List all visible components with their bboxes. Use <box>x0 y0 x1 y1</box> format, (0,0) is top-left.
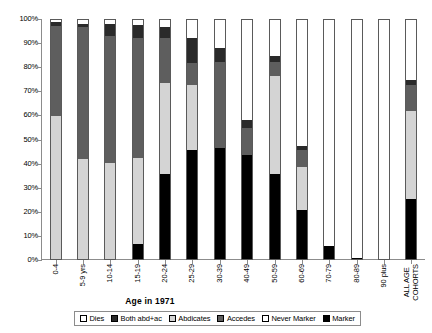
bar-segment-marker <box>324 246 334 259</box>
bar-segment-marker <box>133 244 143 259</box>
bar-segment-accedes <box>270 62 280 76</box>
x-label-slot: 90 plus <box>370 264 397 312</box>
x-axis-tick <box>138 260 139 264</box>
stacked-bar[interactable] <box>159 19 171 260</box>
x-axis-tick-label: 10-14 <box>106 264 115 283</box>
bar-slot <box>261 19 288 260</box>
bar-segment-marker <box>406 199 416 259</box>
bar-segment-accedes <box>51 26 61 116</box>
bar-segment-abdicates <box>105 163 115 259</box>
legend-label: Accedes <box>227 315 255 323</box>
legend-label: Marker <box>332 315 355 323</box>
chart-legend: DiesBoth abd+acAbdicatesAccedesNever Mar… <box>74 311 361 326</box>
bars-container <box>42 19 425 260</box>
bar-segment-dies <box>160 20 170 27</box>
y-axis-tick <box>37 236 42 237</box>
plot-area: 0%10%20%30%40%50%60%70%80%90%100% <box>0 0 432 268</box>
bar-slot <box>124 19 151 260</box>
x-label-slot: 80-89 <box>343 264 370 312</box>
x-axis-tick <box>165 260 166 264</box>
stacked-bar[interactable] <box>351 19 363 260</box>
y-axis-tick <box>37 115 42 116</box>
bar-segment-marker <box>297 210 307 259</box>
x-axis-tick-label: 25-29 <box>188 264 197 283</box>
x-axis-tick-label: 30-39 <box>216 264 225 283</box>
bar-segment-accedes <box>78 27 88 158</box>
bar-segment-accedes <box>242 128 252 155</box>
x-axis-tick <box>83 260 84 264</box>
y-axis-tick-label: 20% <box>24 208 38 216</box>
legend-label: Abdicates <box>178 315 210 323</box>
y-axis-tick-label: 60% <box>24 111 38 119</box>
stacked-bar[interactable] <box>214 19 226 260</box>
x-axis-tick-label: 15-19 <box>134 264 143 283</box>
y-axis-tick-labels: 0%10%20%30%40%50%60%70%80%90%100% <box>8 13 38 265</box>
bar-segment-marker <box>352 258 362 259</box>
bar-slot <box>69 19 96 260</box>
legend-item[interactable]: Accedes <box>217 315 255 323</box>
stacked-bar[interactable] <box>104 19 116 260</box>
y-axis-tick <box>37 260 42 261</box>
bar-slot <box>316 19 343 260</box>
legend-label: Both abd+ac <box>121 315 162 323</box>
bar-segment-both-abd-ac <box>105 24 115 36</box>
stacked-bar[interactable] <box>323 19 335 260</box>
x-axis-tick-label: 50-59 <box>270 264 279 283</box>
bar-slot <box>206 19 233 260</box>
stacked-bar[interactable] <box>269 19 281 260</box>
bar-segment-dies <box>297 20 307 145</box>
y-axis-tick <box>37 140 42 141</box>
stacked-bar[interactable] <box>50 19 62 260</box>
x-axis-title: Age in 1971 <box>0 296 300 306</box>
x-axis-tick <box>357 260 358 264</box>
x-axis-tick-label: 90 plus <box>380 264 389 288</box>
bar-slot <box>398 19 425 260</box>
stacked-bar[interactable] <box>186 19 198 260</box>
bar-segment-dies <box>406 20 416 80</box>
stacked-bar[interactable] <box>405 19 417 260</box>
bar-segment-dies <box>215 20 225 47</box>
y-axis-tick-label: 90% <box>24 39 38 47</box>
stacked-bar[interactable] <box>77 19 89 260</box>
y-axis-tick <box>37 188 42 189</box>
x-axis-tick-label: 60-69 <box>298 264 307 283</box>
stacked-bar-chart: 0%10%20%30%40%50%60%70%80%90%100% 0-45-9… <box>0 0 432 333</box>
bar-segment-abdicates <box>51 116 61 259</box>
bar-slot <box>179 19 206 260</box>
bar-segment-dies <box>379 20 389 259</box>
y-axis-tick <box>37 19 42 20</box>
bar-segment-accedes <box>187 63 197 85</box>
legend-item[interactable]: Dies <box>80 315 104 323</box>
stacked-bar[interactable] <box>241 19 253 260</box>
legend-item[interactable]: Never Marker <box>262 315 316 323</box>
stacked-bar[interactable] <box>132 19 144 260</box>
legend-swatch <box>111 315 118 322</box>
bar-segment-both-abd-ac <box>215 48 225 62</box>
x-axis-tick-label: 40-49 <box>243 264 252 283</box>
bar-segment-marker <box>215 148 225 259</box>
x-label-slot: ALL AGE COHORTS <box>398 264 425 312</box>
x-axis-tick <box>411 260 412 264</box>
y-axis-tick-label: 30% <box>24 184 38 192</box>
bar-slot <box>343 19 370 260</box>
bar-segment-both-abd-ac <box>187 38 197 63</box>
y-axis-tick <box>37 43 42 44</box>
legend-label: Dies <box>90 315 105 323</box>
x-axis-tick <box>56 260 57 264</box>
legend-item[interactable]: Abdicates <box>169 315 211 323</box>
x-axis-tick <box>220 260 221 264</box>
x-label-slot: 70-79 <box>316 264 343 312</box>
legend-item[interactable]: Marker <box>323 315 355 323</box>
stacked-bar[interactable] <box>296 19 308 260</box>
bar-segment-accedes <box>406 85 416 111</box>
x-axis-tick-label: 5-9 yrs <box>79 264 88 286</box>
y-axis-tick <box>37 164 42 165</box>
bar-slot <box>370 19 397 260</box>
legend-item[interactable]: Both abd+ac <box>111 315 162 323</box>
bar-segment-dies <box>187 20 197 38</box>
y-axis-tick <box>37 212 42 213</box>
stacked-bar[interactable] <box>378 19 390 260</box>
bar-segment-abdicates <box>297 167 307 210</box>
legend-swatch <box>80 315 87 322</box>
bar-segment-marker <box>242 155 252 259</box>
